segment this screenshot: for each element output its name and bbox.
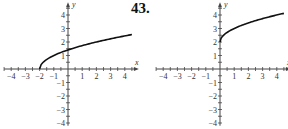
x-tick-label: −4 — [159, 72, 168, 81]
function-curve — [40, 35, 132, 69]
y-tick-label: −4 — [208, 119, 217, 128]
x-axis-arrow-icon — [134, 67, 139, 71]
y-tick-label: 4 — [61, 11, 65, 20]
x-tick-label: −2 — [187, 72, 196, 81]
y-axis-label: y — [223, 0, 228, 9]
y-axis-arrow-icon — [66, 2, 70, 7]
x-tick-label: 1 — [232, 72, 236, 81]
y-tick-label: 1 — [213, 52, 217, 61]
y-axis-label: y — [71, 0, 76, 9]
x-tick-label: −2 — [35, 72, 44, 81]
x-tick-label: 2 — [94, 72, 98, 81]
x-tick-label: 1 — [80, 72, 84, 81]
x-tick-label: 2 — [246, 72, 250, 81]
y-tick-label: 4 — [213, 11, 217, 20]
y-tick-label: −2 — [56, 92, 65, 101]
x-tick-label: 4 — [123, 72, 127, 81]
x-axis-arrow-icon — [286, 67, 288, 71]
x-tick-label: −3 — [21, 72, 30, 81]
y-axis-arrow-icon — [218, 2, 222, 7]
y-tick-label: −1 — [56, 79, 65, 88]
graph-right: xy−4−3−2−11234−4−3−2−11234 — [144, 0, 288, 129]
function-curve — [220, 13, 284, 42]
x-axis-label: x — [134, 58, 139, 67]
graph-left: xy−4−3−2−11234−4−3−2−11234 — [0, 0, 144, 129]
y-tick-label: 2 — [61, 38, 65, 47]
x-tick-label: 3 — [261, 72, 265, 81]
x-tick-label: 3 — [109, 72, 113, 81]
x-axis-label: x — [286, 58, 288, 67]
y-tick-label: −1 — [208, 79, 217, 88]
y-tick-label: −3 — [208, 106, 217, 115]
x-tick-label: −3 — [173, 72, 182, 81]
y-tick-label: −2 — [208, 92, 217, 101]
y-tick-label: 3 — [61, 25, 65, 34]
y-tick-label: −3 — [56, 106, 65, 115]
y-tick-label: 3 — [213, 25, 217, 34]
y-tick-label: 2 — [213, 38, 217, 47]
y-tick-label: −4 — [56, 119, 65, 128]
x-tick-label: 4 — [275, 72, 279, 81]
x-tick-label: −4 — [7, 72, 16, 81]
